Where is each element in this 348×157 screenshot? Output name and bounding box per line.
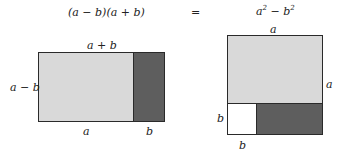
right-expression: a2 − b2 — [256, 5, 295, 17]
left-bottom-label-a: a — [83, 126, 90, 137]
equals-sign: = — [191, 7, 200, 18]
right-white-square — [227, 103, 258, 135]
right-top-label: a — [270, 24, 277, 35]
right-side-label: a — [326, 79, 333, 90]
left-light-region — [38, 52, 135, 122]
left-expression: (a − b)(a + b) — [68, 7, 145, 18]
right-dark-region — [256, 103, 323, 135]
right-light-region — [227, 35, 323, 105]
left-bottom-label-b: b — [146, 126, 153, 137]
right-bottom-label: b — [239, 140, 246, 151]
right-left-label: b — [217, 113, 224, 124]
left-dark-region — [133, 52, 165, 122]
left-side-label: a − b — [10, 82, 40, 93]
left-top-label: a + b — [87, 40, 117, 51]
